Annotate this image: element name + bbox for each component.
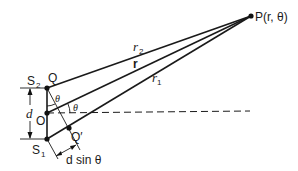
ray-r <box>47 16 251 113</box>
label-s2-subscript: 2 <box>36 81 41 90</box>
label-d-sin-theta: d sin θ <box>66 153 102 167</box>
arrowhead-down <box>28 132 33 139</box>
interference-diagram: P(r, θ) S 2 Q O Q′ S 1 r 2 r r 1 θ θ d d… <box>0 0 298 171</box>
label-p: P(r, θ) <box>255 10 288 24</box>
label-r2-subscript: 2 <box>139 47 144 56</box>
label-d: d <box>26 106 33 121</box>
label-q-prime: Q′ <box>71 130 83 144</box>
label-s1: S <box>32 143 40 157</box>
point-s1 <box>44 136 49 141</box>
label-theta-q: θ <box>55 93 60 104</box>
arrowhead-up <box>28 88 33 95</box>
label-s1-subscript: 1 <box>41 150 46 159</box>
arrowhead-right <box>70 145 76 150</box>
label-r1-subscript: 1 <box>157 78 162 87</box>
angle-arc-q <box>47 104 55 106</box>
point-q <box>44 85 49 90</box>
label-o: O <box>36 114 45 128</box>
angle-arc-o <box>68 104 70 113</box>
point-p <box>248 13 253 18</box>
label-theta-o: θ <box>73 102 78 113</box>
label-q: Q <box>48 71 57 85</box>
label-r: r <box>133 57 138 71</box>
arrowhead-left <box>56 151 62 156</box>
label-s2: S <box>27 74 35 88</box>
